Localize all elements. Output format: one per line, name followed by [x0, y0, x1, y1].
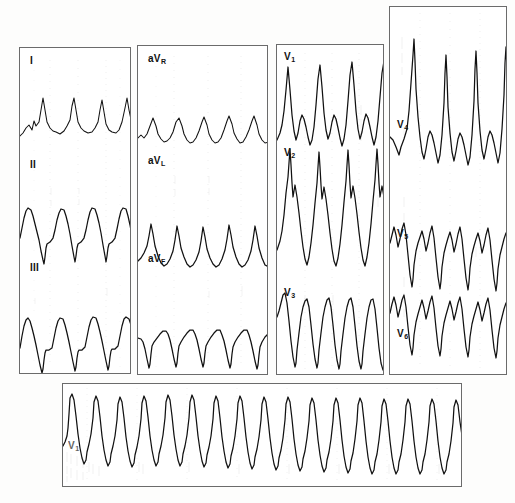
lead-label-aVF: aVF	[148, 254, 165, 264]
augmented-leads-traces	[138, 46, 268, 375]
ecg-sheet: I II III aVR aVL aVF	[0, 0, 515, 503]
panel-augmented-leads: aVR aVL aVF	[137, 45, 268, 375]
lead-label-rhythm-V1: V1	[68, 441, 79, 451]
precordial-v4-v6-traces	[390, 7, 507, 375]
panel-precordial-v4-v6: V4 V5 V6	[389, 6, 507, 375]
panel-precordial-v1-v3: V1 V2 V3	[276, 44, 384, 375]
lead-label-I: I	[30, 56, 33, 66]
lead-label-V3: V3	[284, 288, 295, 298]
lead-label-III: III	[30, 263, 39, 273]
lead-label-V1: V1	[284, 52, 295, 62]
lead-label-II: II	[30, 160, 36, 170]
lead-label-V4: V4	[397, 120, 408, 130]
lead-label-V6: V6	[397, 329, 408, 339]
limb-leads-traces	[20, 48, 131, 374]
precordial-v1-v3-traces	[277, 45, 384, 375]
panel-rhythm-strip: V1	[62, 383, 462, 487]
lead-label-V2: V2	[284, 148, 295, 158]
lead-label-V5: V5	[397, 229, 408, 239]
lead-label-aVR: aVR	[148, 54, 166, 64]
lead-label-aVL: aVL	[148, 156, 165, 166]
panel-limb-leads: I II III	[19, 47, 131, 374]
rhythm-strip-trace	[63, 384, 462, 487]
